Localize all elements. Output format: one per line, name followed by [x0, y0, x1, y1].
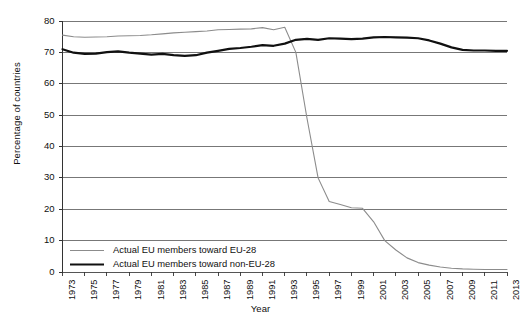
- x-tick-label: 1983: [178, 280, 188, 300]
- x-tick-label: 2013: [511, 280, 521, 300]
- y-tick-label: 10: [21, 234, 55, 245]
- x-tick-label: 1995: [311, 280, 321, 300]
- x-tick-label: 1999: [356, 280, 366, 300]
- x-tick-label: 1993: [289, 280, 299, 300]
- y-tick-label: 0: [21, 266, 55, 277]
- x-tick-label: 2005: [422, 280, 432, 300]
- y-tick-label: 20: [21, 203, 55, 214]
- x-tick-label: 1989: [245, 280, 255, 300]
- series-line-2: [63, 37, 508, 56]
- x-tick-label: 2011: [489, 280, 499, 300]
- legend-label-1: Actual EU members toward EU-28: [113, 244, 256, 255]
- x-tick-label: 1977: [111, 280, 121, 300]
- y-tick-label: 60: [21, 77, 55, 88]
- y-tick-label: 30: [21, 171, 55, 182]
- y-tick-label: 70: [21, 46, 55, 57]
- series-line-1: [63, 27, 508, 269]
- x-tick-label: 1987: [222, 280, 232, 300]
- x-axis-title: Year: [0, 303, 521, 314]
- x-tick-label: 1985: [200, 280, 210, 300]
- y-tick-label: 50: [21, 109, 55, 120]
- x-tick-label: 1973: [67, 280, 77, 300]
- y-tick-label: 80: [21, 15, 55, 26]
- x-tick-label: 1981: [156, 280, 166, 300]
- x-tick-label: 1979: [133, 280, 143, 300]
- x-tick-label: 1991: [267, 280, 277, 300]
- plot-canvas: [0, 0, 521, 323]
- x-tick-label: 1975: [89, 280, 99, 300]
- x-tick-label: 2007: [445, 280, 455, 300]
- x-tick-label: 2003: [400, 280, 410, 300]
- x-tick-label: 1997: [333, 280, 343, 300]
- line-chart-figure: Percentage of countries Year 01020304050…: [0, 0, 521, 323]
- x-tick-label: 2001: [378, 280, 388, 300]
- x-tick-label: 2009: [467, 280, 477, 300]
- legend-label-2: Actual EU members toward non-EU-28: [113, 258, 275, 269]
- y-tick-label: 40: [21, 140, 55, 151]
